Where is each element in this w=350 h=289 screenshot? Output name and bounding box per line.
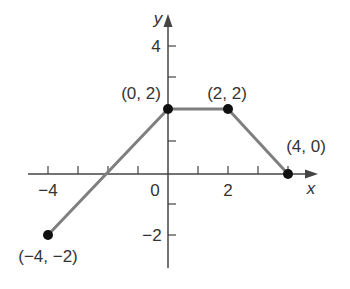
point-0-2 xyxy=(163,104,173,114)
point-label-0-2: (0, 2) xyxy=(121,84,161,103)
tick-label-x-2: 2 xyxy=(223,181,232,200)
y-axis-label: y xyxy=(153,9,164,28)
point-label-2-2: (2, 2) xyxy=(207,84,247,103)
x-axis-label: x xyxy=(306,179,316,198)
y-axis-arrow-icon xyxy=(164,14,173,27)
point-neg4-neg2 xyxy=(43,230,53,240)
tick-label-x-neg4: −4 xyxy=(38,181,57,200)
point-4-0 xyxy=(283,169,293,179)
tick-label-y-4: 4 xyxy=(151,37,160,56)
tick-label-y-neg2: −2 xyxy=(142,226,161,245)
tick-label-x-0: 0 xyxy=(150,181,159,200)
y-ticks xyxy=(168,46,176,235)
x-axis-arrow-icon xyxy=(305,170,318,179)
point-label-neg4-neg2: (−4, −2) xyxy=(18,247,78,266)
piecewise-graph: −4 0 2 4 −2 y x (−4, −2) (0, 2) (2, 2) (… xyxy=(0,0,350,289)
point-2-2 xyxy=(223,104,233,114)
point-label-4-0: (4, 0) xyxy=(286,137,326,156)
